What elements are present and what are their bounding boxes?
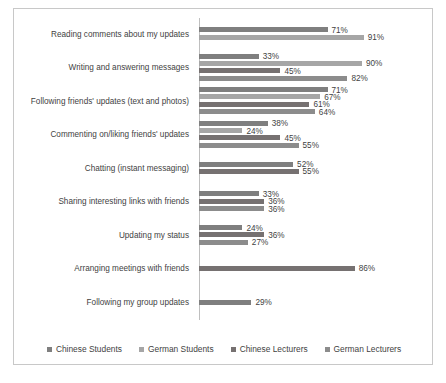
bar-group: 38%24%45%55% <box>199 119 426 153</box>
bar-value-label: 33% <box>259 52 279 61</box>
bar-group: 33%90%45%82% <box>199 52 426 86</box>
bar-german-lecturers[interactable] <box>199 76 347 81</box>
category-row: Commenting on/liking friends' updates38%… <box>22 119 426 153</box>
bar-chinese-lecturers[interactable] <box>199 199 264 204</box>
bar-chinese-students[interactable] <box>199 162 293 167</box>
category-row: Writing and answering messages33%90%45%8… <box>22 52 426 86</box>
legend-item[interactable]: German Students <box>139 344 214 354</box>
bar-group: 24%36%27% <box>199 219 426 253</box>
legend-item[interactable]: Chinese Lecturers <box>231 344 308 354</box>
bar-value-label: 90% <box>362 59 382 68</box>
category-label: Commenting on/liking friends' updates <box>22 119 194 153</box>
bar-chinese-students[interactable] <box>199 54 259 59</box>
bar-chinese-students[interactable] <box>199 225 242 230</box>
bar-german-students[interactable] <box>199 94 320 99</box>
bar-chinese-students[interactable] <box>199 27 328 32</box>
bar-group: 33%36%36% <box>199 186 426 220</box>
category-row: Chatting (instant messaging)52%55% <box>22 152 426 186</box>
bar-group: 86% <box>199 253 426 287</box>
bar-german-students[interactable] <box>199 61 362 66</box>
bar-chinese-lecturers[interactable] <box>199 232 264 237</box>
category-row: Arranging meetings with friends86% <box>22 253 426 287</box>
bar-german-lecturers[interactable] <box>199 109 315 114</box>
category-row: Following my group updates29% <box>22 286 426 320</box>
legend-swatch-icon <box>47 347 52 352</box>
bar-value-label: 82% <box>347 74 367 83</box>
chart-container: Reading comments about my updates71%91%W… <box>13 8 433 365</box>
bar-chinese-lecturers[interactable] <box>199 169 299 174</box>
bar-value-label: 38% <box>268 119 288 128</box>
category-label: Arranging meetings with friends <box>22 253 194 287</box>
bar-group: 71%67%61%64% <box>199 85 426 119</box>
bar-german-lecturers[interactable] <box>199 206 264 211</box>
bar-value-label: 71% <box>328 25 348 34</box>
bar-value-label: 29% <box>251 298 271 307</box>
bar-chinese-students[interactable] <box>199 87 328 92</box>
legend-item[interactable]: German Lecturers <box>325 344 402 354</box>
category-label: Following friends' updates (text and pho… <box>22 85 194 119</box>
bar-value-label: 91% <box>364 33 384 42</box>
bar-chinese-students[interactable] <box>199 300 251 305</box>
legend-label: German Lecturers <box>334 344 402 354</box>
bar-value-label: 45% <box>280 66 300 75</box>
legend-swatch-icon <box>325 347 330 352</box>
legend-label: Chinese Students <box>56 344 122 354</box>
category-label: Writing and answering messages <box>22 52 194 86</box>
category-row: Sharing interesting links with friends33… <box>22 186 426 220</box>
plot-area: Reading comments about my updates71%91%W… <box>22 18 426 320</box>
bar-german-students[interactable] <box>199 128 242 133</box>
bar-value-label: 24% <box>242 223 262 232</box>
category-label: Updating my status <box>22 219 194 253</box>
bar-german-lecturers[interactable] <box>199 143 299 148</box>
bar-value-label: 24% <box>242 126 262 135</box>
bar-german-lecturers[interactable] <box>199 240 248 245</box>
category-label: Chatting (instant messaging) <box>22 152 194 186</box>
category-row: Reading comments about my updates71%91% <box>22 18 426 52</box>
category-label: Following my group updates <box>22 286 194 320</box>
bar-chinese-students[interactable] <box>199 121 268 126</box>
bar-chinese-lecturers[interactable] <box>199 68 280 73</box>
legend-swatch-icon <box>139 347 144 352</box>
bar-chinese-lecturers[interactable] <box>199 266 355 271</box>
bar-german-students[interactable] <box>199 35 364 40</box>
bar-value-label: 27% <box>248 238 268 247</box>
legend-item[interactable]: Chinese Students <box>47 344 122 354</box>
legend-swatch-icon <box>231 347 236 352</box>
category-row: Following friends' updates (text and pho… <box>22 85 426 119</box>
bar-value-label: 36% <box>264 204 284 213</box>
bar-chinese-lecturers[interactable] <box>199 102 309 107</box>
chart-legend: Chinese StudentsGerman StudentsChinese L… <box>14 344 434 354</box>
bar-value-label: 64% <box>315 107 335 116</box>
category-label: Reading comments about my updates <box>22 18 194 52</box>
legend-label: Chinese Lecturers <box>240 344 308 354</box>
bar-value-label: 86% <box>355 264 375 273</box>
bar-group: 52%55% <box>199 152 426 186</box>
bar-value-label: 55% <box>299 141 319 150</box>
bar-group: 71%91% <box>199 18 426 52</box>
bar-chinese-students[interactable] <box>199 191 259 196</box>
bar-value-label: 55% <box>299 167 319 176</box>
category-row: Updating my status24%36%27% <box>22 219 426 253</box>
category-label: Sharing interesting links with friends <box>22 186 194 220</box>
bar-group: 29% <box>199 286 426 320</box>
legend-label: German Students <box>148 344 214 354</box>
bar-chinese-lecturers[interactable] <box>199 135 280 140</box>
